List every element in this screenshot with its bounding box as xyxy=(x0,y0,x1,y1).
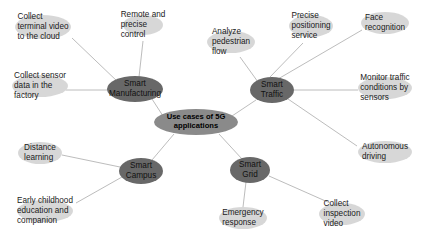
node-label-monitor-traffic-conditions: Monitor traffic conditions by sensors xyxy=(360,73,409,102)
node-smart-traffic[interactable]: Smart Traffic xyxy=(232,73,312,107)
node-label-precise-positioning-service: Precise positioning service xyxy=(291,11,330,40)
node-remote-precise-control[interactable]: Remote and precise control xyxy=(103,8,183,42)
node-label-distance-learning: Distance learning xyxy=(24,143,56,162)
node-label-smart-manufacturing: Smart Manufacturing xyxy=(109,79,161,98)
node-label-collect-sensor-data: Collect sensor data in the factory xyxy=(14,71,66,100)
node-collect-inspection-video[interactable]: Collect inspection video xyxy=(302,197,382,231)
edge-smart-traffic-precise-positioning xyxy=(270,43,303,77)
node-root[interactable]: Use cases of 5G applications xyxy=(154,105,238,139)
node-label-autonomous-driving: Autonomous driving xyxy=(362,142,408,161)
node-collect-terminal-video[interactable]: Collect terminal video to the cloud xyxy=(3,10,83,44)
node-analyze-pedestrian-flow[interactable]: Analyze pedestrian flow xyxy=(191,25,271,59)
node-label-root: Use cases of 5G applications xyxy=(167,113,226,131)
node-precise-positioning-service[interactable]: Precise positioning service xyxy=(271,9,351,43)
node-monitor-traffic-conditions[interactable]: Monitor traffic conditions by sensors xyxy=(345,71,425,105)
node-label-collect-inspection-video: Collect inspection video xyxy=(324,199,361,228)
node-early-childhood-education[interactable]: Early childhood education and companion xyxy=(5,194,85,228)
node-label-emergency-response: Emergency response xyxy=(222,208,263,227)
node-smart-grid[interactable]: Smart Grid xyxy=(210,153,290,187)
node-label-analyze-pedestrian-flow: Analyze pedestrian flow xyxy=(212,27,250,56)
node-label-remote-precise-control: Remote and precise control xyxy=(121,10,166,39)
node-label-early-childhood-education: Early childhood education and companion xyxy=(17,196,73,225)
node-label-smart-grid: Smart Grid xyxy=(239,160,261,179)
node-smart-manufacturing[interactable]: Smart Manufacturing xyxy=(95,72,175,106)
node-autonomous-driving[interactable]: Autonomous driving xyxy=(345,135,425,169)
mind-map-diagram: Collect terminal video to the cloudRemot… xyxy=(0,0,425,245)
node-distance-learning[interactable]: Distance learning xyxy=(0,136,80,170)
node-label-smart-traffic: Smart Traffic xyxy=(261,80,283,99)
node-label-face-recognition: Face recognition xyxy=(365,13,405,32)
node-smart-campus[interactable]: Smart Campus xyxy=(101,154,181,188)
node-collect-sensor-data[interactable]: Collect sensor data in the factory xyxy=(0,69,80,103)
node-face-recognition[interactable]: Face recognition xyxy=(345,6,425,40)
node-label-smart-campus: Smart Campus xyxy=(126,161,157,180)
node-label-collect-terminal-video: Collect terminal video to the cloud xyxy=(18,12,69,41)
node-emergency-response[interactable]: Emergency response xyxy=(203,201,283,235)
